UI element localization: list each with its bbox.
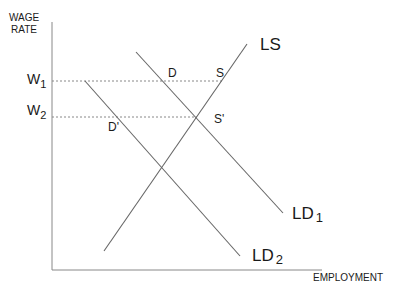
w2-subscript: 2 — [40, 109, 46, 121]
ld2-subscript: 2 — [276, 252, 283, 267]
w1-label: W1 — [27, 72, 46, 86]
ls-label: LS — [260, 36, 281, 53]
labor-demand-1-curve — [136, 52, 283, 213]
ld1-label: LD1 — [292, 205, 323, 222]
point-s-prime-label: S' — [214, 113, 224, 125]
point-s-label: S — [216, 67, 224, 79]
ld1-subscript: 1 — [316, 210, 323, 225]
point-d-prime-label: D' — [108, 121, 119, 133]
ld2-label: LD2 — [252, 247, 283, 264]
w1-subscript: 1 — [40, 78, 46, 90]
labor-demand-2-curve — [85, 81, 240, 256]
y-axis-label-line1: WAGE — [6, 12, 42, 24]
ld2-letter: LD — [252, 246, 274, 265]
w2-label: W2 — [27, 103, 46, 117]
y-axis-label: WAGE RATE — [6, 12, 42, 36]
y-axis-label-line2: RATE — [6, 24, 42, 36]
labor-market-diagram — [0, 0, 397, 283]
ld1-letter: LD — [292, 204, 314, 223]
w1-letter: W — [27, 71, 40, 87]
w2-letter: W — [27, 102, 40, 118]
x-axis-label: EMPLOYMENT — [313, 273, 383, 283]
point-d-label: D — [168, 67, 177, 79]
